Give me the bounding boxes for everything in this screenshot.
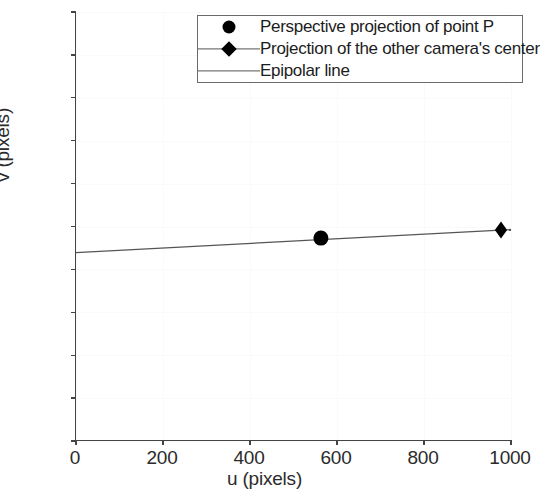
legend-diamond-marker-icon bbox=[198, 38, 260, 60]
gridline-horizontal bbox=[76, 441, 510, 442]
legend-circle-marker-icon bbox=[198, 16, 260, 38]
x-tick-label: 800 bbox=[407, 447, 438, 469]
legend-box: Perspective projection of point P Projec… bbox=[197, 15, 523, 83]
epipolar-line bbox=[76, 230, 511, 253]
x-tick-label: 600 bbox=[320, 447, 351, 469]
legend-line-icon bbox=[198, 60, 260, 82]
x-axis-title: u (pixels) bbox=[0, 468, 529, 490]
marker-camera-center-projection bbox=[495, 221, 507, 238]
marker-perspective-projection-point bbox=[313, 231, 328, 246]
legend-label: Projection of the other camera's center bbox=[260, 39, 540, 59]
x-tick-label: 0 bbox=[70, 447, 80, 469]
legend-label: Epipolar line bbox=[260, 61, 350, 81]
legend-item-perspective-projection: Perspective projection of point P bbox=[198, 16, 522, 38]
legend-item-camera-center-projection: Projection of the other camera's center bbox=[198, 38, 522, 60]
legend-label: Perspective projection of point P bbox=[260, 17, 494, 37]
x-tick-label: 1000 bbox=[489, 447, 530, 469]
x-tick-label: 400 bbox=[233, 447, 264, 469]
y-axis-title: v (pixels) bbox=[0, 108, 14, 182]
x-tick-label: 200 bbox=[146, 447, 177, 469]
legend-item-epipolar-line: Epipolar line bbox=[198, 60, 522, 82]
